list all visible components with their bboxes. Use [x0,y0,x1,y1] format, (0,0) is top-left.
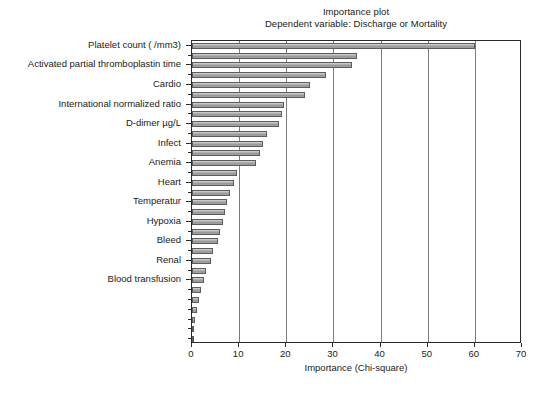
x-tick [521,343,522,347]
bar [192,199,227,205]
plot-area [191,40,521,343]
bar [192,141,263,147]
bar [192,131,267,137]
bar [192,258,211,264]
bar [192,160,256,166]
importance-plot-figure: Importance plot Dependent variable: Disc… [0,0,553,393]
y-axis-label: Blood transfusion [108,274,181,284]
bar [192,102,284,108]
bar [192,180,234,186]
y-axis-label: Infect [158,138,181,148]
bar [192,219,223,225]
bar [192,326,194,332]
bar [192,170,237,176]
y-axis-label: Platelet count ( /mm3) [88,40,181,50]
y-axis-label: Temperatur [133,196,181,206]
x-tick-label: 30 [327,348,338,359]
x-tick [427,343,428,347]
y-axis-label: Bleed [157,235,181,245]
y-axis-label: D-dimer µg/L [126,118,181,128]
x-tick-label: 0 [188,348,193,359]
x-tick-label: 40 [374,348,385,359]
y-axis-label: Renal [156,255,181,265]
bar [192,209,225,215]
bar [192,121,279,127]
bar [192,229,220,235]
chart-subtitle: Dependent variable: Discharge or Mortali… [191,18,521,30]
bar [192,307,197,313]
bar [192,62,352,68]
bar [192,317,195,323]
y-axis-label: Activated partial thromboplastin time [28,59,181,69]
chart-title: Importance plot [191,6,521,18]
bar [192,43,475,49]
chart-title-block: Importance plot Dependent variable: Disc… [191,6,521,30]
bar [192,248,213,254]
x-tick [191,343,192,347]
bar [192,111,282,117]
x-tick [474,343,475,347]
bar [192,82,310,88]
x-tick-label: 50 [421,348,432,359]
x-tick-label: 20 [280,348,291,359]
bar-series [192,41,520,342]
x-tick [380,343,381,347]
bar [192,150,260,156]
y-axis-category-labels: Platelet count ( /mm3)Activated partial … [0,40,181,343]
bar [192,190,230,196]
bar [192,336,194,342]
y-axis-label: Hypoxia [147,216,181,226]
x-tick [285,343,286,347]
y-axis-label: Cardio [153,79,181,89]
x-tick [332,343,333,347]
x-tick-label: 70 [516,348,527,359]
bar [192,92,305,98]
bar [192,268,206,274]
bar [192,287,201,293]
y-axis-label: Anemia [149,157,181,167]
x-tick-label: 10 [233,348,244,359]
bar [192,53,357,59]
y-axis-label: Heart [158,177,181,187]
bar [192,238,218,244]
bar [192,277,204,283]
y-axis-label: International normalized ratio [58,99,181,109]
x-tick [238,343,239,347]
bar [192,297,199,303]
x-axis-title: Importance (Chi-square) [191,362,521,373]
x-tick-label: 60 [469,348,480,359]
bar [192,72,326,78]
x-axis: 010203040506070 [191,343,521,363]
